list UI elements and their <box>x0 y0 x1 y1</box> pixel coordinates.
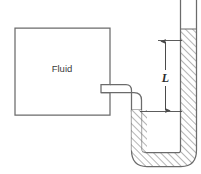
manometer-diagram-canvas: Fluid <box>0 0 201 174</box>
fluid-tank: Fluid <box>15 28 110 115</box>
length-dimension: L <box>140 41 182 112</box>
pipe-outer-wall <box>110 85 132 113</box>
manometer-diagram-figure: Fluid <box>0 0 201 174</box>
tank-fluid-label: Fluid <box>52 63 73 74</box>
dimension-label-L: L <box>161 71 169 85</box>
